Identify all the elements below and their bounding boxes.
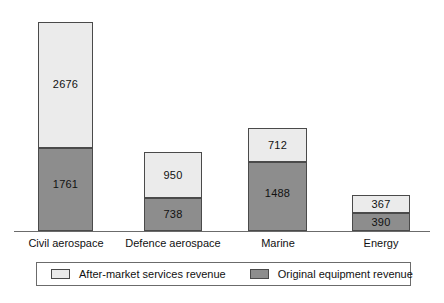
- bar-value-label: 712: [268, 140, 287, 151]
- bar-segment-original-equipment: 1488: [248, 162, 307, 231]
- bar-marine: 712 1488: [248, 128, 307, 231]
- chart-page: 2676 1761 950 738 712 1488: [0, 0, 444, 303]
- bar-segment-after-market: 367: [352, 195, 410, 213]
- category-label-defence-aerospace: Defence aerospace: [117, 236, 229, 251]
- bar-segment-after-market: 2676: [38, 22, 93, 148]
- bar-value-label: 390: [372, 217, 391, 228]
- bar-segment-after-market: 712: [248, 128, 307, 162]
- bar-civil-aerospace: 2676 1761: [38, 22, 93, 231]
- bar-segment-original-equipment: 1761: [38, 148, 93, 231]
- legend-label: Original equipment revenue: [278, 269, 413, 280]
- bar-segment-original-equipment: 390: [352, 213, 410, 231]
- category-label-marine: Marine: [238, 236, 318, 251]
- category-label-civil-aerospace: Civil aerospace: [16, 236, 116, 251]
- category-label-energy: Energy: [341, 236, 421, 251]
- legend-swatch-light-icon: [51, 269, 70, 279]
- bar-defence-aerospace: 950 738: [144, 152, 202, 231]
- plot-area: 2676 1761 950 738 712 1488: [0, 0, 444, 232]
- chart-legend: After-market services revenue Original e…: [36, 262, 411, 286]
- legend-swatch-dark-icon: [250, 269, 269, 279]
- bar-segment-after-market: 950: [144, 152, 202, 198]
- bar-energy: 367 390: [352, 195, 410, 231]
- legend-item-original-equipment[interactable]: Original equipment revenue: [250, 269, 413, 280]
- bar-value-label: 1761: [53, 179, 78, 190]
- bar-value-label: 950: [164, 170, 183, 181]
- bar-segment-original-equipment: 738: [144, 198, 202, 231]
- bar-value-label: 1488: [265, 188, 290, 199]
- legend-label: After-market services revenue: [79, 269, 226, 280]
- category-axis-labels: Civil aerospace Defence aerospace Marine…: [0, 236, 444, 254]
- legend-item-after-market[interactable]: After-market services revenue: [51, 269, 226, 280]
- bar-value-label: 738: [164, 209, 183, 220]
- bar-value-label: 2676: [53, 79, 78, 90]
- bar-value-label: 367: [372, 199, 391, 210]
- x-axis-baseline: [14, 231, 430, 232]
